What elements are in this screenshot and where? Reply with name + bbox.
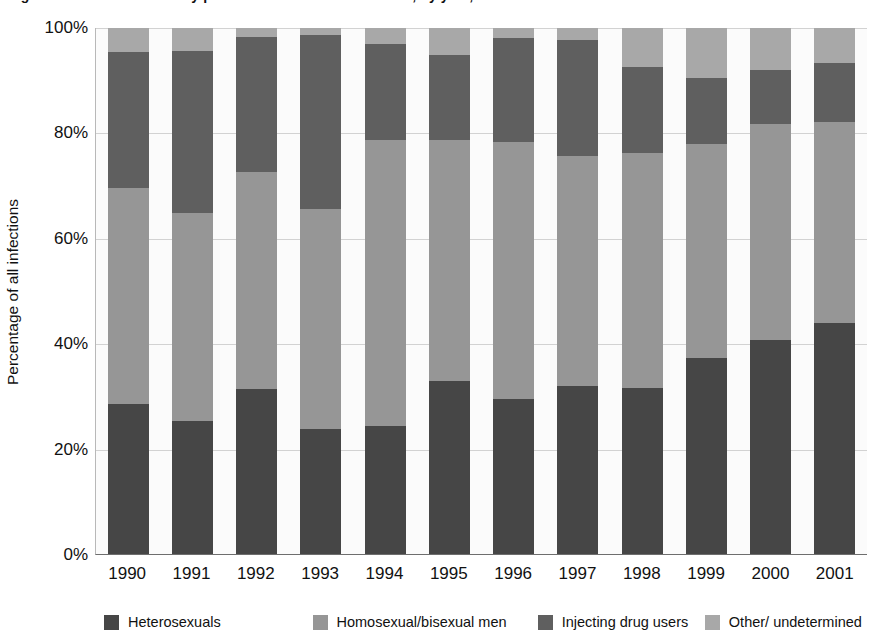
bar-column[interactable] <box>803 28 867 554</box>
y-axis-tick-labels: 0%20%40%60%80%100% <box>26 28 94 555</box>
y-axis-tick-label: 100% <box>45 18 88 38</box>
bar-segment[interactable] <box>493 28 534 37</box>
chart-title: Figure 1.1: HIV infections by probable r… <box>8 0 548 3</box>
bar-segment[interactable] <box>622 388 663 554</box>
bar-segment[interactable] <box>686 144 727 359</box>
legend-item[interactable]: Other/ undetermined <box>705 614 864 630</box>
bar-segment[interactable] <box>236 28 277 37</box>
y-axis-tick-label: 40% <box>54 334 88 354</box>
bar-segment[interactable] <box>108 404 149 554</box>
stacked-bar[interactable] <box>172 28 213 554</box>
bar-segment[interactable] <box>236 389 277 554</box>
stacked-bar[interactable] <box>300 28 341 554</box>
bar-column[interactable] <box>610 28 674 554</box>
bar-column[interactable] <box>674 28 738 554</box>
bar-segment[interactable] <box>365 140 406 426</box>
x-axis-tick-label: 1994 <box>352 560 416 592</box>
bar-segment[interactable] <box>172 51 213 213</box>
stacked-bar[interactable] <box>365 28 406 554</box>
bar-segment[interactable] <box>814 63 855 122</box>
stacked-bar[interactable] <box>429 28 470 554</box>
x-axis-tick-label: 1992 <box>224 560 288 592</box>
bar-segment[interactable] <box>429 140 470 381</box>
bar-column[interactable] <box>546 28 610 554</box>
stacked-bar[interactable] <box>750 28 791 554</box>
bar-segment[interactable] <box>814 28 855 63</box>
bar-segment[interactable] <box>557 386 598 554</box>
bar-segment[interactable] <box>172 213 213 421</box>
bar-column[interactable] <box>739 28 803 554</box>
x-axis-tick-label: 2000 <box>738 560 802 592</box>
bar-segment[interactable] <box>365 28 406 44</box>
x-axis-tick-labels: 1990199119921993199419951996199719981999… <box>95 560 867 592</box>
legend-label: Other/ undetermined <box>729 614 862 630</box>
bar-column[interactable] <box>482 28 546 554</box>
bar-segment[interactable] <box>686 78 727 144</box>
bar-segment[interactable] <box>557 40 598 156</box>
bar-segment[interactable] <box>493 399 534 554</box>
bar-segment[interactable] <box>493 142 534 399</box>
bar-segment[interactable] <box>172 421 213 554</box>
bar-segment[interactable] <box>557 156 598 386</box>
bar-segment[interactable] <box>429 55 470 140</box>
bar-segment[interactable] <box>686 358 727 554</box>
bar-column[interactable] <box>225 28 289 554</box>
y-axis-tick-label: 20% <box>54 440 88 460</box>
legend-swatch-icon <box>104 615 119 630</box>
bar-segment[interactable] <box>686 28 727 78</box>
bar-segment[interactable] <box>300 35 341 210</box>
bar-segment[interactable] <box>750 28 791 70</box>
legend-swatch-icon <box>538 615 553 630</box>
bar-segment[interactable] <box>429 28 470 55</box>
bar-segment[interactable] <box>814 323 855 554</box>
bar-segment[interactable] <box>300 28 341 35</box>
bar-segment[interactable] <box>557 28 598 40</box>
legend-item[interactable]: Injecting drug users <box>538 614 705 630</box>
legend-label: Homosexual/bisexual men <box>337 614 507 630</box>
stacked-bar[interactable] <box>814 28 855 554</box>
bar-segment[interactable] <box>108 188 149 404</box>
bar-segment[interactable] <box>493 38 534 142</box>
bar-column[interactable] <box>289 28 353 554</box>
bar-segment[interactable] <box>622 67 663 153</box>
figure-container: Figure 1.1: HIV infections by probable r… <box>0 0 876 641</box>
stacked-bar[interactable] <box>493 28 534 554</box>
bar-segment[interactable] <box>622 153 663 388</box>
legend-swatch-icon <box>705 615 720 630</box>
bar-column[interactable] <box>160 28 224 554</box>
legend-item[interactable]: Heterosexuals <box>104 614 313 630</box>
legend-label: Heterosexuals <box>128 614 221 630</box>
stacked-bar[interactable] <box>557 28 598 554</box>
chart-legend: HeterosexualsHomosexual/bisexual menInje… <box>104 608 864 636</box>
bar-segment[interactable] <box>429 381 470 554</box>
bar-segment[interactable] <box>750 124 791 340</box>
bar-segment[interactable] <box>814 122 855 323</box>
bar-segment[interactable] <box>365 44 406 140</box>
x-axis-tick-label: 1999 <box>674 560 738 592</box>
stacked-bar[interactable] <box>108 28 149 554</box>
bar-segment[interactable] <box>622 28 663 67</box>
bar-segment[interactable] <box>108 52 149 188</box>
stacked-bar[interactable] <box>686 28 727 554</box>
bar-column[interactable] <box>353 28 417 554</box>
stacked-bar[interactable] <box>622 28 663 554</box>
bar-segment[interactable] <box>750 340 791 554</box>
bar-segment[interactable] <box>750 70 791 124</box>
x-axis-tick-label: 1990 <box>95 560 159 592</box>
bar-segment[interactable] <box>108 28 149 52</box>
bar-segment[interactable] <box>300 209 341 429</box>
legend-swatch-icon <box>313 615 328 630</box>
bar-segment[interactable] <box>236 37 277 171</box>
stacked-bar[interactable] <box>236 28 277 554</box>
x-axis-tick-label: 1991 <box>159 560 223 592</box>
bar-group <box>96 28 867 554</box>
y-axis-tick-label: 0% <box>63 545 88 565</box>
bar-segment[interactable] <box>300 429 341 554</box>
legend-item[interactable]: Homosexual/bisexual men <box>313 614 538 630</box>
bar-segment[interactable] <box>365 426 406 554</box>
bar-column[interactable] <box>96 28 160 554</box>
bar-segment[interactable] <box>172 28 213 51</box>
bar-column[interactable] <box>417 28 481 554</box>
x-axis-tick-label: 1993 <box>288 560 352 592</box>
bar-segment[interactable] <box>236 172 277 389</box>
